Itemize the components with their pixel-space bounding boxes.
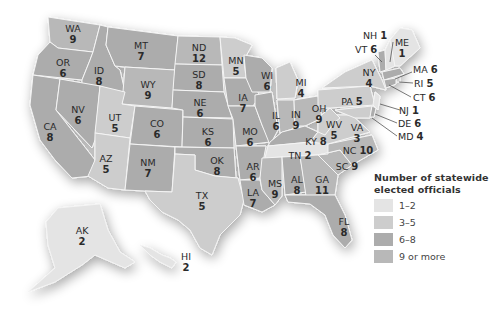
label-ok: OK8 [210,155,224,177]
label-tx: TX5 [196,190,208,212]
label-al: AL8 [291,174,303,196]
label-wi: WI6 [261,70,273,92]
label-wa: WA9 [65,23,80,45]
state-ak [28,204,135,292]
legend-item-6-8: 6–8 [374,231,489,247]
label-hi: HI2 [181,251,191,273]
legend-swatch [374,216,393,229]
state-ct [384,78,396,88]
label-sd: SD8 [192,69,205,91]
label-az: AZ5 [99,153,112,175]
label-fl: FL8 [339,216,350,238]
label-il: IL6 [272,110,280,132]
label-nd: ND12 [192,42,206,64]
label-ms: MS9 [268,178,282,200]
legend-swatch [374,233,393,246]
label-la: LA7 [247,187,259,209]
label-de: DE6 [398,118,421,129]
label-or: OR6 [56,57,70,79]
label-ak: AK2 [76,225,89,247]
label-mi: MI4 [296,77,307,99]
label-mn: MN5 [228,55,243,77]
label-nh: NH1 [363,30,387,41]
label-in: IN9 [291,109,301,131]
label-nv: NV6 [71,104,85,126]
label-ct: CT6 [413,92,435,103]
label-nj: NJ1 [399,105,419,116]
label-wy: WY9 [140,79,155,101]
label-vt: VT6 [355,44,377,55]
label-ma: MA6 [413,64,438,75]
label-id: ID8 [94,65,104,87]
label-mo: MO6 [242,126,258,148]
legend-item-1-2: 1–2 [374,197,489,213]
legend-swatch [374,199,393,212]
legend-item-9-plus: 9 or more [374,248,489,264]
label-ia: IA7 [238,92,247,114]
state-ny [322,60,386,90]
label-sc: SC9 [336,161,359,172]
label-ut: UT5 [109,112,122,134]
state-hi [140,245,176,268]
label-ri: RI5 [414,78,433,89]
label-pa: PA5 [341,96,363,107]
label-md: MD4 [398,131,423,142]
map-legend: Number of statewide elected officials 1–… [374,172,489,264]
label-nc: NC10 [343,145,374,156]
label-ga: GA11 [315,174,329,196]
label-mt: MT7 [134,40,148,62]
label-ky: KY8 [305,136,327,147]
label-ar: AR6 [246,161,259,183]
label-va: VA3 [351,122,363,144]
label-oh: OH9 [312,103,327,125]
label-co: CO6 [150,118,164,140]
legend-item-3-5: 3–5 [374,214,489,230]
label-ca: CA8 [43,121,56,143]
label-ne: NE6 [193,97,206,119]
legend-title: Number of statewide elected officials [374,172,489,196]
label-tn: TN2 [289,150,312,161]
label-wv: WV5 [326,119,342,141]
label-nm: NM7 [140,157,155,179]
label-me: ME1 [395,37,409,59]
label-ks: KS6 [202,126,214,148]
legend-swatch [374,250,393,263]
label-ny: NY4 [363,67,376,89]
